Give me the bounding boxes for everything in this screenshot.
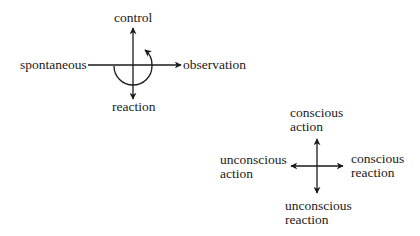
label-reaction: reaction [112, 100, 155, 114]
label-line: action [290, 120, 343, 134]
label-line: conscious [290, 106, 343, 120]
label-line: reaction [285, 213, 352, 227]
label-unconscious-reaction: unconscious reaction [285, 199, 352, 227]
label-unconscious-action: unconscious action [220, 153, 287, 181]
label-line: action [220, 167, 287, 181]
label-spontaneous: spontaneous [20, 58, 87, 72]
label-observation: observation [183, 58, 246, 72]
label-conscious-action: conscious action [290, 106, 343, 134]
label-line: reaction [351, 166, 404, 180]
diagram-2-axes [291, 139, 343, 193]
diagram-canvas: control reaction spontaneous observation… [0, 0, 420, 236]
diagram-1-axes [88, 28, 181, 99]
label-line: conscious [351, 152, 404, 166]
diagram-lines [0, 0, 420, 236]
label-line: unconscious [220, 153, 287, 167]
label-control: control [114, 11, 152, 25]
label-line: unconscious [285, 199, 352, 213]
label-conscious-reaction: conscious reaction [351, 152, 404, 180]
